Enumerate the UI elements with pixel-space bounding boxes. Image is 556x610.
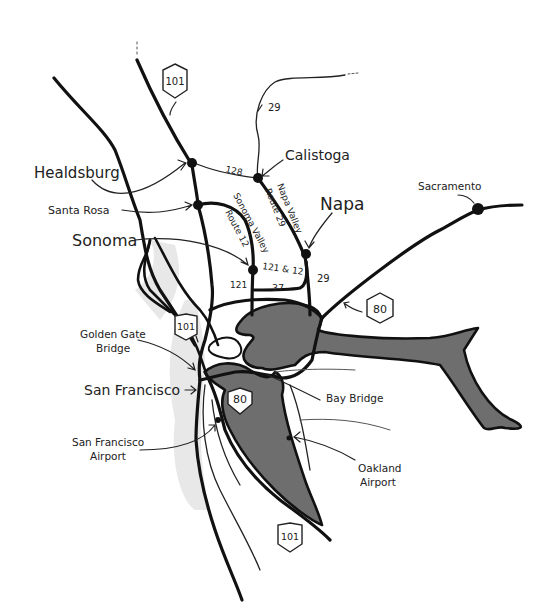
sacramento-arrow xyxy=(458,195,474,203)
peninsula-island xyxy=(209,338,242,359)
label-napa: Napa xyxy=(320,194,364,214)
us101-gg-label: 101 xyxy=(177,321,195,332)
us101-gg-shield: 101 xyxy=(175,314,197,340)
calistoga-arrow xyxy=(262,160,283,176)
us101-north-label: 101 xyxy=(165,76,184,87)
i80-bay-label: 80 xyxy=(233,393,247,406)
oakland-airport-arrow xyxy=(294,432,355,460)
label-oakland-2: Airport xyxy=(360,476,396,488)
sacramento-dot xyxy=(472,203,484,215)
label-sfo-1: San Francisco xyxy=(72,436,144,448)
napa-dot xyxy=(301,249,311,259)
label-route-37: 37 xyxy=(272,282,284,293)
label-healdsburg: Healdsburg xyxy=(34,164,120,182)
oakland-airport-dot xyxy=(287,436,292,441)
i80-east-shield: 80 xyxy=(367,293,393,323)
label-calistoga: Calistoga xyxy=(285,147,350,163)
label-oakland-1: Oakland xyxy=(358,462,401,474)
label-sacramento: Sacramento xyxy=(418,180,482,192)
label-golden-gate-2: Bridge xyxy=(96,342,130,354)
sonoma-dot xyxy=(248,265,258,275)
route-29-continuation xyxy=(348,73,358,74)
east-bay-road-1 xyxy=(275,369,355,372)
us101-north-shield: 101 xyxy=(163,64,187,98)
label-sfo-2: Airport xyxy=(90,450,126,462)
i80-east-label: 80 xyxy=(373,303,387,316)
label-sonoma: Sonoma xyxy=(72,231,137,250)
label-route-128: 128 xyxy=(225,164,244,177)
us101-south-label: 101 xyxy=(281,531,299,542)
healdsburg-dot xyxy=(187,158,197,168)
east-bay-road-3 xyxy=(300,419,390,430)
us101-north-arrow xyxy=(170,102,176,115)
interstate-80 xyxy=(322,205,522,318)
i80-arrow xyxy=(344,302,362,312)
label-golden-gate-1: Golden Gate xyxy=(80,328,146,340)
label-route-121-12: 121 & 12 xyxy=(262,261,304,277)
south-bay xyxy=(205,363,322,525)
label-route-29-north: 29 xyxy=(268,102,281,113)
us101-south-shield: 101 xyxy=(278,523,302,552)
bay-area-map: 101 101 101 80 80 Healdsburg Santa Rosa … xyxy=(0,0,556,610)
label-santa-rosa: Santa Rosa xyxy=(48,204,110,217)
label-san-francisco: San Francisco xyxy=(84,382,180,398)
sfo-dot xyxy=(215,417,221,423)
label-bay-bridge: Bay Bridge xyxy=(326,392,383,404)
label-route-121: 121 xyxy=(230,280,247,290)
calistoga-dot xyxy=(253,173,263,183)
label-route-29-south: 29 xyxy=(317,273,330,284)
napa-arrow xyxy=(305,213,332,248)
santa-rosa-dot xyxy=(193,200,203,210)
